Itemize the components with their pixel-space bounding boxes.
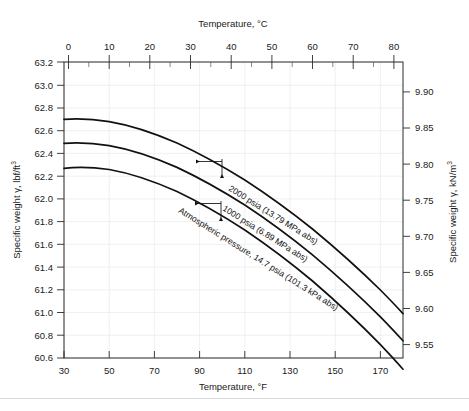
- left-tick-label-61-0: 61.0: [35, 307, 54, 318]
- left-tick-label-62-0: 62.0: [35, 193, 54, 204]
- right-tick-label-9-75: 9.75: [415, 195, 434, 206]
- top-tick-label-80: 80: [389, 41, 400, 52]
- right-axis-title: Specific weight γ, kN/m: [447, 165, 458, 263]
- right-tick-label-9-80: 9.80: [415, 159, 434, 170]
- right-tick-label-9-90: 9.90: [415, 86, 434, 97]
- left-tick-label-60-8: 60.8: [35, 330, 54, 341]
- left-tick-label-63-2: 63.2: [35, 57, 54, 68]
- bottom-tick-label-30: 30: [59, 365, 70, 376]
- top-tick-label-70: 70: [348, 41, 359, 52]
- svg-text:Specific weight γ, kN/m3: Specific weight γ, kN/m3: [446, 161, 458, 263]
- top-tick-label-10: 10: [104, 41, 115, 52]
- right-tick-label-9-55: 9.55: [415, 339, 434, 350]
- top-tick-label-20: 20: [145, 41, 156, 52]
- left-tick-label-61-4: 61.4: [35, 262, 54, 273]
- bottom-tick-label-170: 170: [372, 365, 388, 376]
- left-tick-label-61-2: 61.2: [35, 284, 54, 295]
- top-tick-label-0: 0: [66, 41, 71, 52]
- top-axis-title: Temperature, °C: [198, 18, 267, 29]
- left-tick-label-61-8: 61.8: [35, 216, 54, 227]
- bottom-tick-label-130: 130: [282, 365, 298, 376]
- top-tick-label-50: 50: [267, 41, 278, 52]
- left-tick-label-62-8: 62.8: [35, 102, 54, 113]
- right-tick-label-9-60: 9.60: [415, 303, 434, 314]
- left-tick-label-62-2: 62.2: [35, 171, 54, 182]
- left-axis-title-exponent: 3: [10, 161, 17, 165]
- right-tick-label-9-85: 9.85: [415, 122, 434, 133]
- left-tick-label-60-6: 60.6: [35, 352, 54, 363]
- left-tick-label-62-6: 62.6: [35, 125, 54, 136]
- bottom-axis-title: Temperature, °F: [199, 381, 267, 392]
- bottom-tick-label-50: 50: [104, 365, 115, 376]
- bottom-tick-label-70: 70: [149, 365, 160, 376]
- right-tick-label-9-70: 9.70: [415, 231, 434, 242]
- bottom-tick-label-110: 110: [237, 365, 252, 376]
- left-axis-title: Specific weight γ, lbf/ft: [11, 164, 22, 258]
- right-tick-label-9-65: 9.65: [415, 267, 434, 278]
- right-axis-title-exponent: 3: [446, 161, 453, 165]
- top-tick-label-60: 60: [307, 41, 318, 52]
- svg-text:Specific weight γ, lbf/ft3: Specific weight γ, lbf/ft3: [10, 161, 22, 259]
- bottom-tick-label-150: 150: [327, 365, 343, 376]
- left-tick-label-62-4: 62.4: [35, 148, 54, 159]
- top-tick-label-30: 30: [185, 41, 196, 52]
- left-tick-label-61-6: 61.6: [35, 239, 54, 250]
- right-axis-title-group: Specific weight γ, kN/m3: [446, 161, 458, 263]
- top-tick-label-40: 40: [226, 41, 237, 52]
- left-axis-title-group: Specific weight γ, lbf/ft3: [10, 161, 22, 259]
- specific-weight-of-water-chart: 0 10 20 30 40 50 60 70 80 Temperature, °…: [0, 0, 469, 411]
- bottom-tick-label-90: 90: [194, 365, 205, 376]
- left-tick-label-63-0: 63.0: [35, 80, 54, 91]
